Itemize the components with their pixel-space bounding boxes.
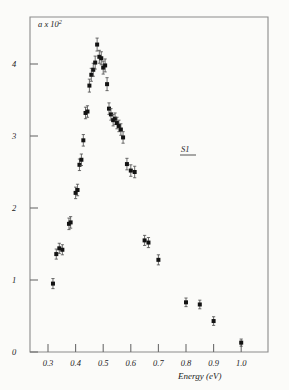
y-axis-label-exponent: 2 (59, 18, 62, 25)
x-axis-title: Energy (eV) (177, 371, 221, 381)
x-axis-tick-labels: 0.30.40.50.60.70.80.91.0 (43, 358, 248, 368)
data-point (99, 56, 103, 60)
plot-frame (30, 17, 268, 352)
data-point (79, 158, 83, 162)
data-point (54, 252, 58, 256)
data-point (143, 238, 147, 242)
y-tick-label: 1 (12, 275, 16, 285)
data-point (212, 319, 216, 323)
data-point (121, 135, 125, 139)
y-axis-label-text: a x 10 (38, 19, 60, 29)
data-point (239, 341, 243, 345)
data-point (119, 128, 123, 132)
x-tick-label: 0.3 (43, 358, 54, 368)
data-point (91, 68, 95, 72)
x-tick-label: 0.6 (125, 358, 136, 368)
data-point (95, 43, 99, 47)
y-tick-label: 4 (12, 59, 17, 69)
x-axis-title-text: Energy (eV) (177, 371, 221, 381)
x-tick-label: 0.4 (70, 358, 81, 368)
data-point (105, 82, 109, 86)
data-point (117, 124, 121, 128)
data-point (146, 241, 150, 245)
series-annotation: S1 (180, 144, 196, 155)
data-point (81, 138, 85, 142)
data-point (76, 188, 80, 192)
y-tick-label: 0 (12, 347, 17, 357)
x-tick-label: 1.0 (236, 358, 247, 368)
data-point (93, 61, 97, 65)
data-point (77, 163, 81, 167)
data-point (60, 248, 64, 252)
data-point (51, 282, 55, 286)
figure-canvas: 01234 0.30.40.50.60.70.80.91.0 a x 102 E… (0, 0, 289, 390)
data-point (125, 162, 129, 166)
svg-text:a x 102: a x 102 (38, 18, 62, 29)
y-axis-tick-labels: 01234 (11, 59, 17, 357)
data-point (133, 170, 137, 174)
y-axis-label: a x 102 (38, 18, 62, 29)
y-tick-label: 2 (12, 203, 17, 213)
y-axis-ticks (30, 64, 38, 352)
data-point (198, 302, 202, 306)
data-point (85, 110, 89, 114)
data-point (87, 84, 91, 88)
x-tick-label: 0.7 (153, 358, 164, 368)
data-point (184, 300, 188, 304)
data-point-group (51, 38, 243, 346)
x-tick-label: 0.9 (208, 358, 219, 368)
data-point (129, 169, 133, 173)
x-axis-ticks (48, 344, 241, 352)
data-point (156, 258, 160, 262)
annotation-label: S1 (181, 144, 190, 154)
data-point (69, 220, 73, 224)
x-tick-label: 0.8 (181, 358, 192, 368)
x-tick-label: 0.5 (98, 358, 109, 368)
absorption-spectrum-chart: 01234 0.30.40.50.60.70.80.91.0 a x 102 E… (0, 0, 289, 390)
y-tick-label: 3 (11, 131, 16, 141)
data-point (103, 63, 107, 67)
